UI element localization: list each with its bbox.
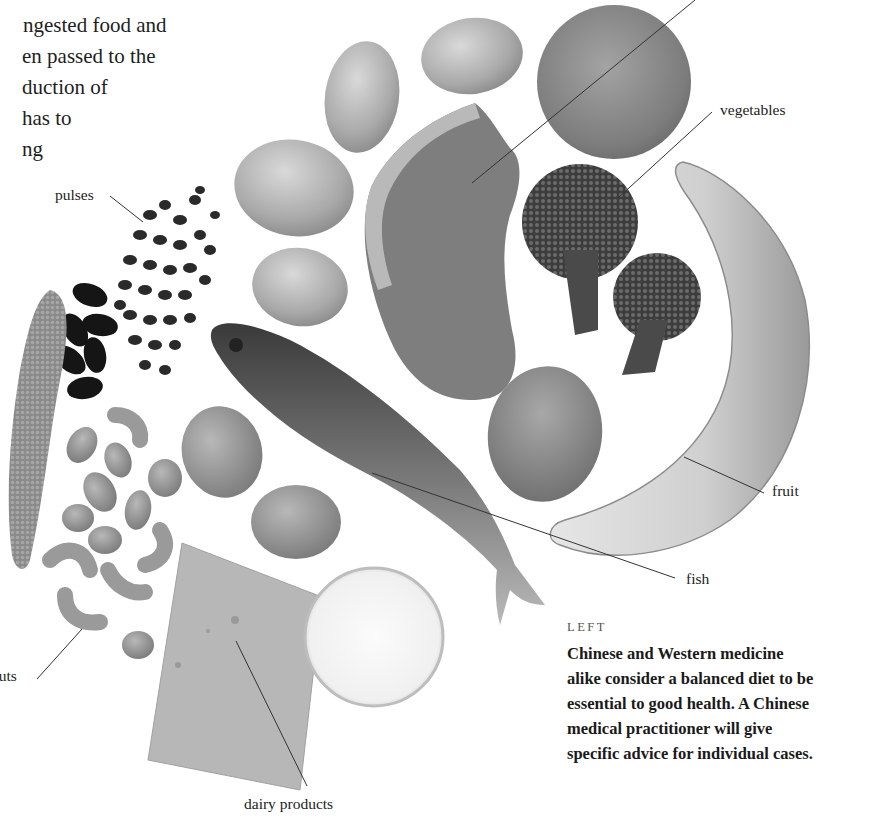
lentils: [9, 290, 67, 569]
body-text-line: duction of: [0, 72, 240, 103]
label-pulses: pulses: [55, 186, 94, 204]
caption-line: Chinese and Western medicine: [567, 641, 871, 666]
book-page: ngested food and en passed to the ductio…: [0, 0, 871, 828]
photo-caption: LEFT Chinese and Western medicine alike …: [567, 620, 871, 766]
potato: [416, 11, 528, 100]
caption-line: essential to good health. A Chinese: [567, 691, 871, 716]
caption-kicker: LEFT: [567, 620, 871, 635]
orange: [537, 5, 691, 159]
body-text-line: ngested food and: [0, 10, 240, 41]
body-text-line: has to: [0, 103, 240, 134]
cheese: [148, 543, 322, 790]
body-text-line: ng: [0, 134, 240, 165]
meat: [365, 103, 520, 400]
label-fish: fish: [686, 570, 709, 588]
potato: [318, 36, 407, 157]
label-nuts: nuts: [0, 667, 17, 685]
walnut: [251, 485, 341, 559]
potato: [246, 240, 354, 333]
body-text-line: en passed to the: [0, 41, 240, 72]
caption-line: specific advice for individual cases.: [567, 741, 871, 766]
caption-text: Chinese and Western medicine alike consi…: [567, 641, 871, 766]
label-fruit: fruit: [772, 482, 799, 500]
caption-line: alike consider a balanced diet to be: [567, 666, 871, 691]
milk-glass: [305, 568, 443, 706]
potato: [227, 130, 362, 245]
walnut: [171, 397, 272, 507]
pulses: [114, 186, 220, 375]
body-text-fragment: ngested food and en passed to the ductio…: [0, 10, 240, 165]
label-dairy-products: dairy products: [244, 795, 333, 813]
caption-line: medical practitioner will give: [567, 716, 871, 741]
label-vegetables: vegetables: [720, 101, 785, 119]
